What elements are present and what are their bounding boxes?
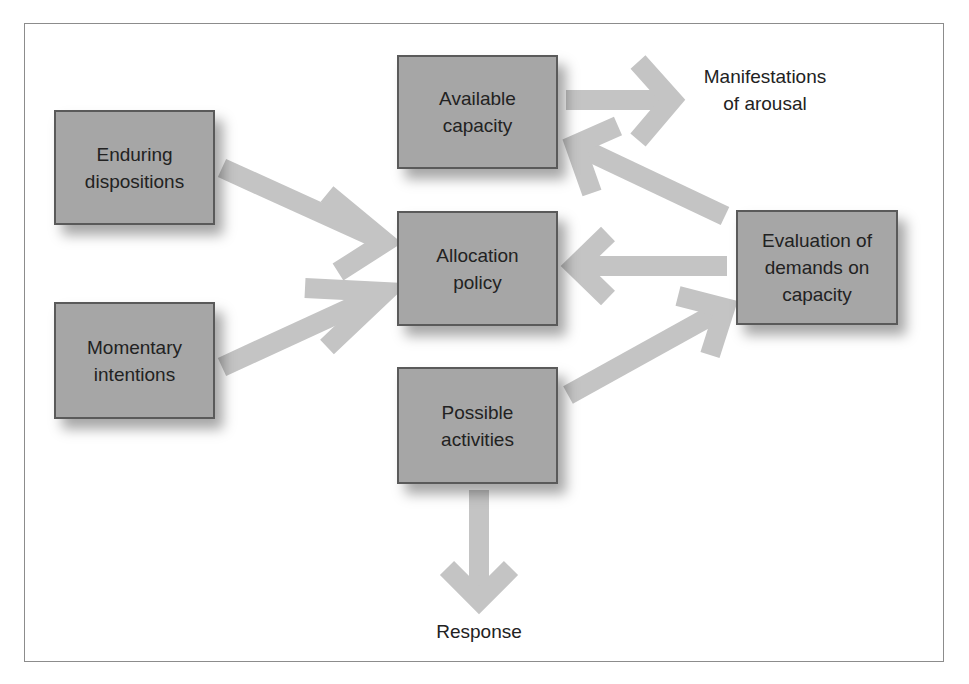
- arrow-possible-to-evaluation: [568, 296, 725, 395]
- arrow-momentary-to-allocation: [222, 288, 385, 367]
- node-momentary-intentions: Momentary intentions: [54, 302, 215, 419]
- node-evaluation-of-demands: Evaluation of demands on capacity: [736, 210, 898, 325]
- arrow-possible-to-response: [447, 490, 511, 600]
- node-possible-activities: Possible activities: [397, 367, 558, 484]
- node-allocation-policy: Allocation policy: [397, 211, 558, 326]
- node-label: Enduring dispositions: [85, 141, 184, 195]
- node-label: Available capacity: [439, 85, 516, 139]
- node-enduring-dispositions: Enduring dispositions: [54, 110, 215, 225]
- node-label: Momentary intentions: [87, 334, 182, 388]
- output-manifestations-of-arousal: Manifestations of arousal: [680, 63, 850, 117]
- output-response: Response: [420, 618, 538, 645]
- arrow-enduring-to-allocation: [222, 168, 385, 272]
- node-label: Possible activities: [441, 399, 514, 453]
- arrow-evaluation-to-allocation: [575, 234, 727, 298]
- node-available-capacity: Available capacity: [397, 55, 558, 169]
- node-label: Evaluation of demands on capacity: [762, 227, 872, 308]
- node-label: Allocation policy: [436, 242, 518, 296]
